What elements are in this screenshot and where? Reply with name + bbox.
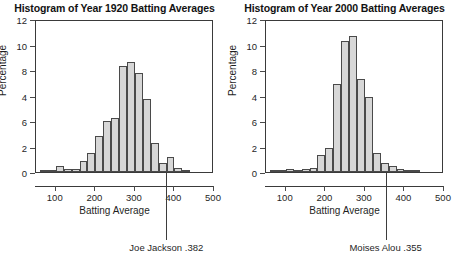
plot-area: [36, 21, 212, 172]
x-axis-tick-label: 200: [316, 192, 332, 203]
y-axis-tick: [260, 173, 265, 174]
histogram-bar: [174, 168, 182, 172]
histogram-bar: [381, 163, 389, 172]
x-axis-tick-label: 400: [166, 192, 182, 203]
histogram-bar: [310, 168, 318, 172]
histogram-bar: [80, 161, 88, 172]
x-axis-title: Batting Average: [230, 205, 459, 216]
histogram-bar: [87, 153, 95, 172]
histogram-bar: [56, 166, 64, 172]
histogram-bar: [151, 143, 159, 172]
x-axis-tick-label: 400: [396, 192, 412, 203]
histogram-bar: [389, 166, 397, 172]
chart-panel-2000: Histogram of Year 2000 Batting Averages …: [230, 0, 459, 277]
x-axis-tick-label: 500: [435, 192, 451, 203]
histogram-bar: [127, 62, 135, 172]
y-axis-tick-label: 6: [3, 117, 27, 128]
histogram-bar: [95, 136, 103, 172]
histogram-bar: [40, 170, 48, 172]
histogram-bar: [143, 99, 151, 172]
figure-histogram-pair: Histogram of Year 1920 Batting Averages …: [0, 0, 459, 277]
annotation-label: Moises Alou .355: [349, 242, 421, 253]
y-axis-tick: [30, 173, 35, 174]
y-axis-tick-label: 0: [3, 168, 27, 179]
histogram-bar: [48, 170, 56, 172]
x-axis-tick: [364, 186, 365, 191]
y-axis-tick-label: 4: [3, 91, 27, 102]
y-axis-tick-label: 6: [233, 117, 257, 128]
y-axis-tick-label: 8: [233, 66, 257, 77]
histogram-bar: [103, 121, 111, 172]
x-axis-tick: [55, 186, 56, 191]
histogram-bar: [412, 170, 420, 172]
histogram-bar: [182, 170, 190, 172]
histogram-bar: [357, 79, 365, 172]
y-axis-tick-label: 2: [233, 142, 257, 153]
histogram-bar: [270, 170, 278, 172]
y-axis-tick-label: 12: [3, 15, 27, 26]
annotation-line: [386, 172, 387, 240]
histogram-bar: [325, 148, 333, 172]
histogram-bar: [302, 169, 310, 172]
y-axis-tick-label: 8: [3, 66, 27, 77]
x-axis-tick-label: 300: [126, 192, 142, 203]
x-axis-tick: [285, 186, 286, 191]
x-axis-tick: [94, 186, 95, 191]
histogram-bar: [333, 84, 341, 172]
y-axis-tick-label: 0: [233, 168, 257, 179]
chart-panel-1920: Histogram of Year 1920 Batting Averages …: [0, 0, 229, 277]
bar-series: [266, 21, 442, 172]
x-axis-tick: [134, 186, 135, 191]
x-axis-line: [265, 186, 443, 187]
x-axis-tick: [403, 186, 404, 191]
histogram-bar: [159, 163, 167, 172]
histogram-bar: [111, 118, 119, 172]
histogram-bar: [167, 157, 175, 172]
histogram-bar: [365, 97, 373, 172]
x-axis-line: [35, 186, 213, 187]
x-axis-tick-label: 100: [277, 192, 293, 203]
annotation-line: [166, 172, 167, 240]
histogram-bar: [349, 36, 357, 172]
y-axis-tick-label: 10: [233, 40, 257, 51]
chart-title: Histogram of Year 2000 Batting Averages: [230, 2, 459, 14]
x-axis-tick-label: 500: [205, 192, 221, 203]
x-axis-tick-label: 200: [86, 192, 102, 203]
y-axis-tick-label: 10: [3, 40, 27, 51]
plot-area: [266, 21, 442, 172]
histogram-bar: [373, 153, 381, 172]
histogram-bar: [72, 169, 80, 172]
histogram-bar: [64, 169, 72, 172]
chart-title: Histogram of Year 1920 Batting Averages: [0, 2, 229, 14]
histogram-bar: [119, 66, 127, 172]
y-axis-tick-label: 2: [3, 142, 27, 153]
histogram-bar: [286, 169, 294, 172]
histogram-bar: [397, 169, 405, 172]
x-axis-tick-label: 300: [356, 192, 372, 203]
histogram-bar: [135, 73, 143, 172]
histogram-bar: [404, 170, 412, 172]
histogram-bar: [317, 155, 325, 172]
annotation-label: Joe Jackson .382: [129, 242, 203, 253]
x-axis-tick: [213, 186, 214, 191]
x-axis-tick: [324, 186, 325, 191]
plot-frame: [265, 20, 443, 173]
bar-series: [36, 21, 212, 172]
x-axis-tick: [443, 186, 444, 191]
histogram-bar: [278, 170, 286, 172]
y-axis-tick-label: 12: [233, 15, 257, 26]
histogram-bar: [294, 170, 302, 172]
plot-frame: [35, 20, 213, 173]
x-axis-title: Batting Average: [0, 205, 229, 216]
x-axis-tick: [173, 186, 174, 191]
x-axis-tick-label: 100: [47, 192, 63, 203]
histogram-bar: [341, 41, 349, 172]
y-axis-tick-label: 4: [233, 91, 257, 102]
